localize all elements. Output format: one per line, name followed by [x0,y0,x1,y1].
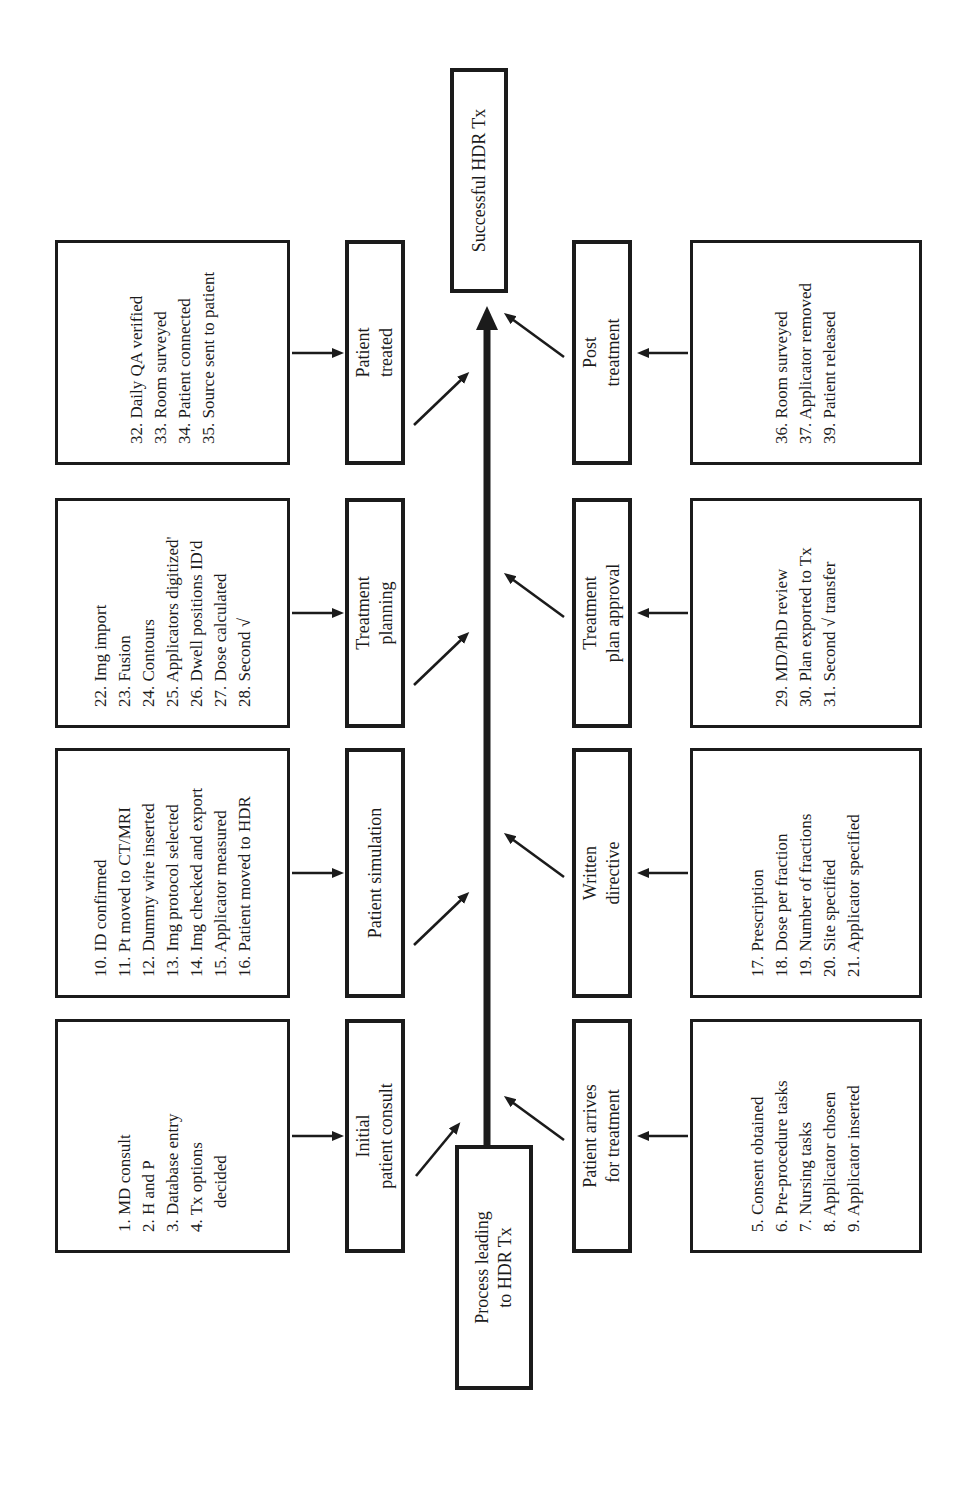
list-item: 32. Daily QA verified [125,272,149,444]
tasks-box-written-directive: 17. Prescription18. Dose per fraction19.… [690,748,922,998]
list-item: 23. Fusion [113,536,137,707]
list-item: 9. Applicator inserted [842,1080,866,1232]
tasks-box-patient-simulation: 10. ID confirmed11. Pt moved to CT/MRI12… [55,748,290,998]
list-item: 12. Dummy wire inserted [137,788,161,977]
list-item: 29. MD/PhD review [770,547,794,707]
tasks-box-patient-arrives: 5. Consent obtained6. Pre-procedure task… [690,1019,922,1253]
list-item: 6. Pre-procedure tasks [770,1080,794,1232]
stage-label: Initial patient consult [352,1083,398,1188]
list-item: 24. Contours [137,536,161,707]
list-item: 34. Patient connected [173,272,197,444]
list-item: 30. Plan exported to Tx [794,547,818,707]
list-item: 27. Dose calculated [209,536,233,707]
list-item: 3. Database entry [161,1114,185,1232]
arrow-stage-to-main-top-1 [414,899,462,945]
arrow-stage-to-main-top-0 [416,1130,454,1176]
task-list: 29. MD/PhD review30. Plan exported to Tx… [770,541,842,725]
stage-box-treatment-plan-approval: Treatment plan approval [572,498,632,728]
tasks-box-patient-treated: 32. Daily QA verified33. Room surveyed34… [55,240,290,465]
flowchart-canvas: Process leading to HDR Tx Successful HDR… [0,0,961,1486]
list-item: 37. Applicator removed [794,283,818,444]
list-item: 35. Source sent to patient [197,272,221,444]
list-item: 16. Patient moved to HDR [233,788,257,977]
stage-box-post-treatment: Post treatment [572,240,632,465]
stage-box-patient-treated: Patient treated [345,240,405,465]
list-item: 13. Img protocol selected [161,788,185,977]
start-label: Process leading to HDR Tx [471,1211,517,1323]
list-item: 14. Img checked and export [185,788,209,977]
task-list: 36. Room surveyed37. Applicator removed3… [770,277,842,462]
arrow-stage-to-main-top-2 [414,639,462,685]
task-list: 22. Img import23. Fusion24. Contours25. … [89,530,257,725]
arrow-stage-to-main-bottom-2 [512,579,564,617]
list-item: 11. Pt moved to CT/MRI [113,788,137,977]
list-item: 33. Room surveyed [149,272,173,444]
list-item: 8. Applicator chosen [818,1080,842,1232]
task-list: 5. Consent obtained6. Pre-procedure task… [746,1074,866,1250]
stage-label: Patient arrives for treatment [579,1084,625,1187]
list-item: 5. Consent obtained [746,1080,770,1232]
arrow-stage-to-main-bottom-1 [512,839,564,877]
stage-box-treatment-planning: Treatment planning [345,498,405,728]
arrow-stage-to-main-top-3 [414,379,462,425]
end-label: Successful HDR Tx [468,109,491,253]
stage-box-initial-patient-consult: Initial patient consult [345,1019,405,1253]
end-box: Successful HDR Tx [450,68,508,293]
list-item: 7. Nursing tasks [794,1080,818,1232]
list-item: 18. Dose per fraction [770,814,794,977]
task-list: 32. Daily QA verified33. Room surveyed34… [125,266,221,462]
list-item: 17. Prescription [746,814,770,977]
arrow-stage-to-main-bottom-3 [512,319,564,357]
list-item: 31. Second √ transfer [818,547,842,707]
task-list: 1. MD consult2. H and P3. Database entry… [113,1108,233,1250]
stage-label: Patient treated [352,328,398,378]
tasks-box-post-treatment: 36. Room surveyed37. Applicator removed3… [690,240,922,465]
stage-label: Written directive [579,842,625,905]
start-box: Process leading to HDR Tx [455,1145,533,1390]
list-item: 22. Img import [89,536,113,707]
list-item: 25. Applicators digitized' [161,536,185,707]
list-item: 36. Room surveyed [770,283,794,444]
stage-label: Treatment planning [352,576,398,649]
stage-box-patient-simulation: Patient simulation [345,748,405,998]
stage-label: Treatment plan approval [579,564,625,662]
stage-label: Post treatment [579,319,625,387]
stage-box-patient-arrives: Patient arrives for treatment [572,1019,632,1253]
list-item: 21. Applicator specified [842,814,866,977]
tasks-box-initial-consult: 1. MD consult2. H and P3. Database entry… [55,1019,290,1253]
list-item: 10. ID confirmed [89,788,113,977]
list-item: 1. MD consult [113,1114,137,1232]
task-list: 10. ID confirmed11. Pt moved to CT/MRI12… [89,782,257,995]
list-item: 39. Patient released [818,283,842,444]
list-item: 28. Second √ [233,536,257,707]
stage-label: Patient simulation [364,808,387,939]
tasks-box-treatment-plan-approval: 29. MD/PhD review30. Plan exported to Tx… [690,498,922,728]
list-item: 2. H and P [137,1114,161,1232]
arrow-stage-to-main-bottom-0 [512,1102,564,1140]
list-item: 4. Tx options decided [185,1114,233,1232]
list-item: 20. Site specified [818,814,842,977]
list-item: 26. Dwell positions ID'd [185,536,209,707]
task-list: 17. Prescription18. Dose per fraction19.… [746,808,866,995]
list-item: 19. Number of fractions [794,814,818,977]
stage-box-written-directive: Written directive [572,748,632,998]
list-item: 15. Applicator measured [209,788,233,977]
tasks-box-treatment-planning: 22. Img import23. Fusion24. Contours25. … [55,498,290,728]
